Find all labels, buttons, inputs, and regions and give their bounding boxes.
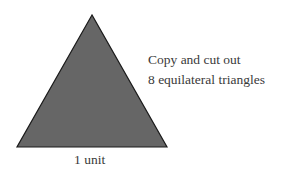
triangle-shape [17, 15, 167, 147]
instruction-line-1: Copy and cut out [148, 50, 265, 70]
side-length-label: 1 unit [74, 152, 105, 168]
instruction-line-2: 8 equilateral triangles [148, 70, 265, 90]
instructions-text: Copy and cut out 8 equilateral triangles [148, 50, 265, 90]
